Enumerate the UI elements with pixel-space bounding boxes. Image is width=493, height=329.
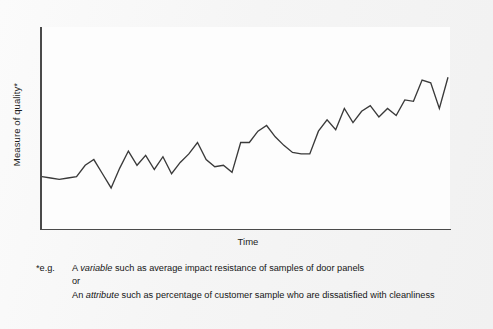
- run-chart-figure: Measure of quality* Time: [0, 0, 493, 260]
- page-canvas: Measure of quality* Time *e.g. A variabl…: [0, 0, 493, 329]
- x-axis-line: [40, 229, 451, 231]
- footnote-line-3-pre: An: [72, 290, 86, 300]
- footnote-line-1-post: such as average impact resistance of sam…: [112, 263, 364, 273]
- footnote-marker: *e.g.: [36, 262, 72, 275]
- footnote-line-3-text: An attribute such as percentage of custo…: [72, 289, 435, 302]
- x-axis-label: Time: [200, 236, 296, 247]
- footnote-line-1-text: A variable such as average impact resist…: [72, 262, 364, 275]
- footnote-line-1-pre: A: [72, 263, 80, 273]
- footnote-block: *e.g. A variable such as average impact …: [36, 262, 488, 302]
- footnote-line-3-post: such as percentage of customer sample wh…: [119, 290, 435, 300]
- footnote-emphasis-variable: variable: [80, 263, 112, 273]
- footnote-line-2-text: or: [72, 275, 80, 288]
- footnote-line-1: *e.g. A variable such as average impact …: [36, 262, 488, 275]
- y-axis-line: [40, 27, 42, 230]
- y-axis-label-container: Measure of quality*: [0, 27, 32, 229]
- plot-area: [40, 27, 450, 229]
- footnote-line-2: or: [36, 275, 488, 288]
- footnote-line-3: An attribute such as percentage of custo…: [36, 289, 488, 302]
- footnote-emphasis-attribute: attribute: [86, 290, 119, 300]
- quality-trend-line: [40, 27, 450, 229]
- y-axis-label: Measure of quality*: [11, 45, 22, 205]
